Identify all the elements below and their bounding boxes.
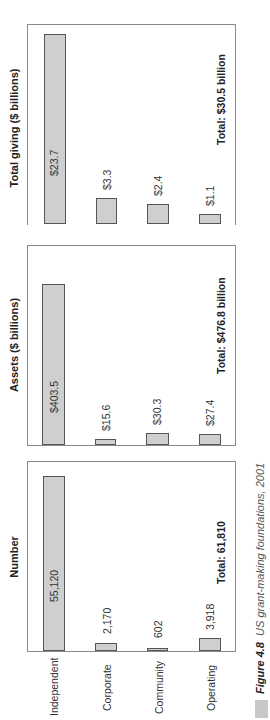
value-label: $403.5 xyxy=(48,381,60,413)
value-label: 3,918 xyxy=(204,604,216,630)
bar-number-operating xyxy=(199,638,221,651)
value-label: 602 xyxy=(152,620,164,638)
value-label: $3.3 xyxy=(101,170,113,190)
bar-giving-independent xyxy=(44,34,66,224)
total-giving-label: Total: $30.5 billion xyxy=(215,54,227,145)
panel-title-number: Number xyxy=(8,536,20,578)
bar-giving-community xyxy=(147,204,169,224)
value-label: $30.3 xyxy=(151,399,163,425)
bar-assets-independent xyxy=(42,284,65,445)
value-label: $27.4 xyxy=(204,400,216,426)
legend-swatch xyxy=(255,700,268,718)
bar-assets-operating xyxy=(199,434,221,445)
bar-number-community xyxy=(147,648,168,651)
category-label-operating: Operating xyxy=(205,665,217,711)
value-label: $1.1 xyxy=(204,186,216,206)
bar-number-independent xyxy=(43,476,65,651)
value-label: $15.6 xyxy=(100,405,112,431)
category-label-independent: Independent xyxy=(48,658,60,716)
total-assets-label: Total: $476.8 billion xyxy=(215,277,227,374)
value-label: $2.4 xyxy=(152,176,164,196)
figure-caption: Figure 4.8 US grant-making foundations, … xyxy=(254,463,266,694)
figure-number: Figure 4.8 xyxy=(254,642,266,694)
bar-assets-corporate xyxy=(95,439,116,445)
category-label-community: Community xyxy=(153,661,165,714)
value-label: 2,170 xyxy=(101,608,113,634)
bar-giving-operating xyxy=(199,214,221,224)
panel-title-assets: Assets ($ billions) xyxy=(8,298,20,392)
value-label: 55,120 xyxy=(48,570,60,602)
bar-assets-community xyxy=(146,433,169,445)
bar-giving-corporate xyxy=(96,198,117,224)
value-label: $23.7 xyxy=(48,150,60,176)
figure-caption-text: US grant-making foundations, 2001 xyxy=(254,463,266,636)
total-number-label: Total: 61,810 xyxy=(215,521,227,584)
category-label-corporate: Corporate xyxy=(101,664,113,711)
bar-number-corporate xyxy=(95,643,117,651)
panel-title-giving: Total giving ($ billions) xyxy=(8,69,20,188)
